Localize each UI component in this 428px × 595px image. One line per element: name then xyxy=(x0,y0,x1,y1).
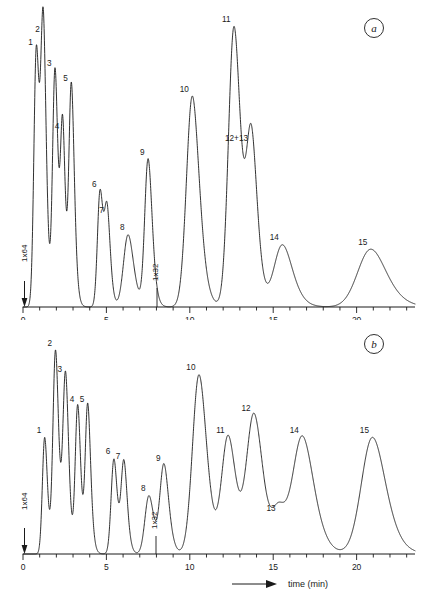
peak-label-14: 14 xyxy=(270,233,280,242)
peak-label-8: 8 xyxy=(120,223,125,232)
panel-b-ticks xyxy=(23,554,407,560)
panel-a-atten-1x64-label: 1x64 xyxy=(20,244,29,262)
peak-label-2: 2 xyxy=(47,339,52,348)
chromatogram-panel-a: 05101520 123456789101112+131415 1x64 1x3… xyxy=(0,0,428,320)
peak-label-10: 10 xyxy=(180,85,190,94)
peak-label-3: 3 xyxy=(57,365,62,374)
panel-a-atten-1x32-label: 1x32 xyxy=(151,263,160,281)
peak-label-1: 1 xyxy=(28,38,33,47)
peak-label-7: 7 xyxy=(99,206,104,215)
panel-a-atten-1x64-arrow-head xyxy=(22,298,28,307)
panel-a-attenuation-start: 1x64 xyxy=(20,244,29,307)
panel-b-axis-group: 05101520 xyxy=(21,554,415,572)
peak-label-3: 3 xyxy=(47,59,52,68)
peak-label-12-plus-13: 12+13 xyxy=(225,134,248,143)
peak-label-7: 7 xyxy=(116,452,121,461)
peak-label-6: 6 xyxy=(106,447,111,456)
chromatogram-panel-b: 05101520 123456789101112131415 1x64 1x32… xyxy=(0,318,428,595)
panel-a-attenuation-mid: 1x32 xyxy=(151,263,160,307)
panel-a-trace-group xyxy=(23,7,415,307)
x-axis-title: time (min) xyxy=(288,579,328,589)
panel-b-atten-1x64-arrow-head xyxy=(22,545,28,554)
peak-label-1: 1 xyxy=(37,426,42,435)
peak-label-15: 15 xyxy=(358,238,368,247)
panel-b-trace-group xyxy=(23,350,415,554)
peak-label-4: 4 xyxy=(55,122,60,131)
panel-b-trace xyxy=(23,350,415,554)
peak-label-14: 14 xyxy=(290,426,300,435)
peak-label-11: 11 xyxy=(222,15,231,24)
panel-a-trace xyxy=(23,7,415,307)
axis-tick-label: 5 xyxy=(104,562,109,572)
peak-label-9: 9 xyxy=(156,454,161,463)
panel-b-tick-labels: 05101520 xyxy=(21,562,362,572)
peak-label-5: 5 xyxy=(63,74,68,83)
peak-label-9: 9 xyxy=(140,148,145,157)
peak-label-2: 2 xyxy=(35,25,40,34)
panel-b-letter: b xyxy=(371,338,377,350)
axis-tick-label: 15 xyxy=(268,562,278,572)
panel-a-peak-labels: 123456789101112+131415 xyxy=(28,15,367,247)
panel-b-attenuation-mid: 1x32 xyxy=(150,511,159,554)
panel-b-attenuation-start: 1x64 xyxy=(20,492,29,554)
panel-a-letter-badge: a xyxy=(365,19,384,38)
peak-label-4: 4 xyxy=(70,395,75,404)
panel-b-atten-1x32-label: 1x32 xyxy=(150,511,159,529)
panel-b-atten-1x64-label: 1x64 xyxy=(20,492,29,510)
peak-label-15: 15 xyxy=(360,426,370,435)
panel-a-ticks xyxy=(23,307,407,313)
panel-b-letter-badge: b xyxy=(365,335,384,354)
peak-label-11: 11 xyxy=(216,426,225,435)
axis-tick-label: 10 xyxy=(185,562,195,572)
peak-label-10: 10 xyxy=(186,363,196,372)
axis-tick-label: 20 xyxy=(352,562,362,572)
peak-label-6: 6 xyxy=(92,180,97,189)
peak-label-5: 5 xyxy=(80,395,85,404)
peak-label-12: 12 xyxy=(241,404,251,413)
x-axis-arrow-head xyxy=(266,580,277,588)
peak-label-8: 8 xyxy=(141,484,146,493)
panel-a-letter: a xyxy=(371,22,377,34)
peak-label-13: 13 xyxy=(266,504,276,513)
axis-tick-label: 0 xyxy=(21,562,26,572)
x-axis-title-group: time (min) xyxy=(232,579,328,589)
figure-root: 05101520 123456789101112+131415 1x64 1x3… xyxy=(0,0,428,595)
